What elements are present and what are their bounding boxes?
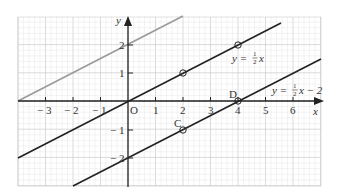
x-tick-label: 6: [290, 104, 296, 116]
y-tick-label: − 1: [110, 124, 124, 136]
svg-text:2: 2: [293, 90, 297, 98]
label-y-half-x: y = 1 2 x: [231, 50, 264, 66]
svg-text:y =: y =: [271, 84, 287, 96]
x-tick-label: 3: [208, 104, 214, 116]
svg-text:x − 2: x − 2: [298, 84, 323, 96]
y-tick-label: 1: [119, 67, 125, 79]
coordinate-graph: − 3 − 2 − 1 1 2 3 4 5 6 2 1 − 1 − 2 O x …: [0, 0, 337, 196]
y-axis-arrow-icon: [124, 16, 132, 26]
svg-text:2: 2: [253, 58, 257, 66]
point-d-label: D: [229, 88, 237, 100]
line-half-x-minus-2: [73, 59, 321, 186]
x-tick-label: − 1: [92, 104, 106, 116]
x-axis-label: x: [312, 105, 318, 117]
origin-label: O: [130, 104, 138, 116]
x-tick-label: 2: [180, 104, 186, 116]
x-tick-label: 1: [153, 104, 159, 116]
y-tick-label: 2: [119, 39, 125, 51]
svg-text:x: x: [258, 52, 264, 64]
x-tick-label: 4: [235, 104, 241, 116]
y-tick-label: − 2: [110, 152, 124, 164]
svg-text:1: 1: [293, 82, 297, 90]
x-tick-label: − 2: [64, 104, 78, 116]
point-c-label: C: [174, 117, 181, 129]
x-axis-arrow-icon: [314, 97, 324, 105]
svg-text:1: 1: [253, 50, 257, 58]
x-tick-label: − 3: [37, 104, 52, 116]
y-axis-label: y: [115, 14, 121, 26]
x-tick-label: 5: [263, 104, 269, 116]
svg-text:y =: y =: [231, 52, 247, 64]
line-half-x: [18, 23, 281, 158]
